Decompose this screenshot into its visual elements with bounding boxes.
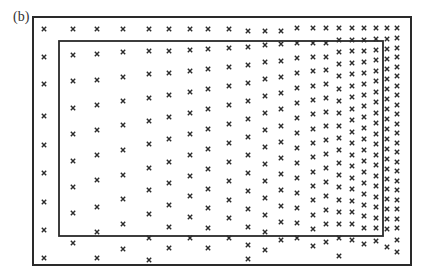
cross-marker xyxy=(311,112,315,116)
cross-marker xyxy=(385,157,389,161)
cross-marker xyxy=(350,72,354,76)
cross-marker xyxy=(385,227,389,231)
cross-marker xyxy=(374,226,378,230)
cross-marker xyxy=(362,181,366,185)
cross-marker xyxy=(121,27,125,31)
cross-marker xyxy=(42,27,46,31)
cross-marker xyxy=(395,84,399,88)
cross-marker xyxy=(246,189,250,193)
cross-marker xyxy=(246,153,250,157)
cross-marker xyxy=(374,121,378,125)
cross-marker xyxy=(350,49,354,53)
cross-marker xyxy=(350,107,354,111)
cross-marker xyxy=(147,49,151,53)
cross-marker xyxy=(246,29,250,33)
cross-marker xyxy=(227,103,231,107)
cross-marker xyxy=(337,74,341,78)
cross-marker xyxy=(337,124,341,128)
cross-marker xyxy=(147,119,151,123)
cross-marker xyxy=(227,141,231,145)
cross-marker xyxy=(95,230,99,234)
cross-marker xyxy=(227,65,231,69)
cross-marker xyxy=(337,62,341,66)
cross-marker xyxy=(337,222,341,226)
cross-marker xyxy=(311,170,315,174)
cross-marker xyxy=(324,180,328,184)
cross-marker xyxy=(395,188,399,192)
cross-marker xyxy=(147,188,151,192)
cross-marker xyxy=(263,248,267,252)
cross-marker xyxy=(121,75,125,79)
cross-marker xyxy=(350,118,354,122)
cross-marker xyxy=(337,111,341,115)
cross-marker xyxy=(362,115,366,119)
cross-marker xyxy=(263,94,267,98)
cross-marker xyxy=(295,101,299,105)
cross-marker xyxy=(374,239,378,243)
cross-marker xyxy=(350,84,354,88)
cross-marker xyxy=(350,26,354,30)
cross-marker xyxy=(279,91,283,95)
cross-marker xyxy=(362,60,366,64)
cross-marker xyxy=(147,72,151,76)
cross-marker xyxy=(167,246,171,250)
cross-marker xyxy=(395,26,399,30)
cross-marker xyxy=(362,93,366,97)
cross-marker xyxy=(385,97,389,101)
cross-marker xyxy=(188,27,192,31)
cross-marker xyxy=(395,65,399,69)
cross-marker xyxy=(385,167,389,171)
cross-marker xyxy=(71,106,75,110)
cross-marker xyxy=(374,142,378,146)
cross-marker xyxy=(324,138,328,142)
cross-marker xyxy=(324,26,328,30)
cross-marker xyxy=(263,111,267,115)
cross-marker xyxy=(362,242,366,246)
cross-marker xyxy=(362,159,366,163)
cross-marker xyxy=(395,112,399,116)
cross-marker xyxy=(246,81,250,85)
cross-marker xyxy=(295,131,299,135)
cross-marker xyxy=(374,132,378,136)
cross-marker xyxy=(295,146,299,150)
cross-marker xyxy=(374,79,378,83)
cross-marker xyxy=(395,150,399,154)
cross-marker xyxy=(246,99,250,103)
cross-marker xyxy=(311,184,315,188)
cross-marker xyxy=(227,27,231,31)
cross-marker xyxy=(188,48,192,52)
cross-marker xyxy=(42,82,46,86)
cross-marker xyxy=(263,29,267,33)
cross-marker xyxy=(227,46,231,50)
cross-marker xyxy=(227,84,231,88)
cross-marker xyxy=(350,222,354,226)
cross-marker xyxy=(246,63,250,67)
cross-marker xyxy=(95,27,99,31)
cross-marker xyxy=(311,69,315,73)
cross-marker xyxy=(246,117,250,121)
cross-marker xyxy=(374,184,378,188)
cross-marker xyxy=(385,47,389,51)
cross-marker xyxy=(362,192,366,196)
cross-marker xyxy=(337,26,341,30)
cross-marker xyxy=(279,124,283,128)
cross-marker xyxy=(279,75,283,79)
cross-marker xyxy=(295,176,299,180)
cross-marker xyxy=(95,52,99,56)
cross-marker xyxy=(395,226,399,230)
cross-marker xyxy=(246,225,250,229)
cross-marker xyxy=(263,230,267,234)
cross-marker xyxy=(295,71,299,75)
cross-marker xyxy=(206,147,210,151)
cross-marker xyxy=(95,128,99,132)
cross-marker xyxy=(311,84,315,88)
cross-marker xyxy=(147,212,151,216)
cross-marker xyxy=(121,197,125,201)
cross-marker xyxy=(350,210,354,214)
cross-marker xyxy=(324,152,328,156)
cross-marker xyxy=(206,67,210,71)
cross-marker xyxy=(395,36,399,40)
cross-marker xyxy=(95,153,99,157)
cross-marker xyxy=(71,27,75,31)
cross-marker xyxy=(362,148,366,152)
